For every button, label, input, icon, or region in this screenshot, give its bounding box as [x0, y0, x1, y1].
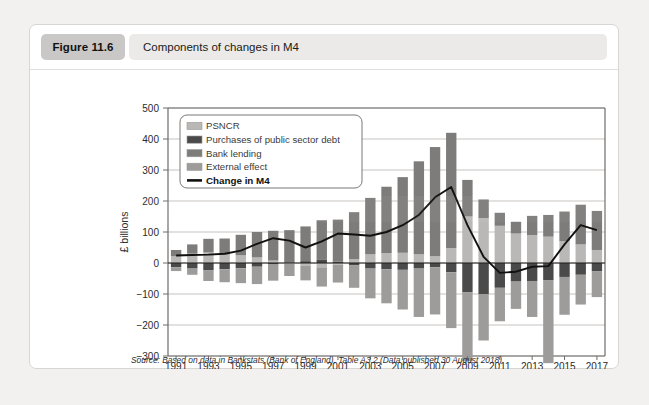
bar-segment — [187, 263, 197, 269]
bar-segment — [592, 271, 602, 297]
legend-item-label: External effect — [206, 161, 267, 172]
y-axis-tick-label: −100 — [136, 289, 159, 300]
x-axis-tick-label: 2015 — [553, 361, 576, 369]
bar-segment — [511, 234, 521, 263]
bar-segment — [495, 213, 505, 226]
y-axis-tick-label: 300 — [142, 165, 159, 176]
bar-segment — [236, 255, 246, 263]
bar-segment — [495, 263, 505, 288]
bar-segment — [462, 263, 472, 292]
bar-segment — [300, 226, 310, 261]
bar-segment — [414, 161, 424, 254]
bar-segment — [592, 263, 602, 271]
y-axis-label: £ billions — [118, 212, 130, 253]
bar-segment — [171, 267, 181, 271]
bar-segment — [592, 211, 602, 250]
bar-segment — [398, 253, 408, 263]
bar-segment — [381, 263, 391, 269]
bar-segment — [430, 256, 440, 263]
chart-plot-area: 5004003002001000−100−200−300£ billions19… — [30, 71, 620, 369]
bar-segment — [236, 263, 246, 268]
y-axis-tick-label: −200 — [136, 320, 159, 331]
bar-segment — [365, 269, 375, 299]
bar-segment — [219, 263, 229, 269]
bar-segment — [333, 265, 343, 283]
components-of-m4-chart: 5004003002001000−100−200−300£ billions19… — [30, 71, 620, 369]
bar-segment — [543, 215, 553, 237]
bar-segment — [268, 265, 278, 281]
bar-segment — [446, 263, 456, 272]
legend-item-label: Change in M4 — [206, 175, 270, 186]
bar-segment — [284, 230, 294, 262]
y-axis-tick-label: 100 — [142, 227, 159, 238]
bar-segment — [365, 254, 375, 263]
y-axis-tick-label: 0 — [153, 258, 159, 269]
bar-segment — [317, 263, 327, 267]
bar-segment — [462, 180, 472, 217]
bar-segment — [203, 270, 213, 281]
bar-segment — [398, 270, 408, 310]
y-axis-tick-label: 400 — [142, 134, 159, 145]
figure-header: Figure 11.6 Components of changes in M4 — [41, 34, 607, 60]
legend-item-label: PSNCR — [206, 120, 240, 131]
x-axis-tick-label: 2017 — [586, 361, 609, 369]
bar-segment — [381, 187, 391, 253]
bar-segment — [236, 268, 246, 283]
y-axis-tick-label: 200 — [142, 196, 159, 207]
bar-segment — [187, 269, 197, 275]
source-note: Source: Based on data in Bankstats (Bank… — [131, 355, 502, 365]
legend-item-label: Purchases of public sector debt — [206, 134, 340, 145]
bar-segment — [592, 250, 602, 263]
bar-segment — [446, 248, 456, 263]
bar-segment — [317, 267, 327, 286]
bar-segment — [478, 294, 488, 341]
bar-segment — [365, 263, 375, 269]
bar-segment — [381, 253, 391, 263]
bar-segment — [495, 288, 505, 321]
bar-segment — [576, 275, 586, 305]
bar-segment — [284, 264, 294, 276]
bar-segment — [268, 231, 278, 261]
bar-segment — [252, 267, 262, 284]
bar-segment — [414, 263, 424, 269]
bar-segment — [398, 263, 408, 270]
bar-segment — [478, 199, 488, 218]
bar-segment — [543, 237, 553, 263]
bar-segment — [203, 239, 213, 253]
bar-segment — [187, 244, 197, 253]
legend-item-label: Bank lending — [206, 148, 261, 159]
bar-segment — [414, 254, 424, 263]
bar-segment — [462, 292, 472, 361]
x-axis-tick-label: 2013 — [521, 361, 544, 369]
bar-segment — [527, 281, 537, 317]
bar-segment — [446, 272, 456, 328]
chart-legend: PSNCRPurchases of public sector debtBank… — [180, 115, 362, 188]
bar-segment — [219, 269, 229, 282]
bar-segment — [171, 256, 181, 263]
bar-segment — [478, 263, 488, 294]
figure-number-badge: Figure 11.6 — [41, 34, 125, 60]
bar-segment — [527, 235, 537, 263]
legend-color-swatch — [187, 136, 202, 143]
figure-title: Components of changes in M4 — [129, 34, 607, 60]
bar-segment — [543, 280, 553, 363]
bar-segment — [349, 265, 359, 287]
bar-segment — [559, 263, 569, 277]
bar-segment — [300, 265, 310, 280]
header-divider — [30, 69, 618, 70]
bar-segment — [559, 277, 569, 315]
bar-segment — [171, 263, 181, 267]
bar-segment — [527, 216, 537, 235]
bar-segment — [430, 263, 440, 267]
y-axis-tick-label: 500 — [142, 103, 159, 114]
figure-card: Figure 11.6 Components of changes in M4 … — [29, 24, 619, 369]
bar-segment — [365, 198, 375, 254]
legend-color-swatch — [187, 150, 202, 157]
bar-segment — [511, 282, 521, 309]
legend-color-swatch — [187, 122, 202, 129]
bar-segment — [495, 226, 505, 263]
bar-segment — [414, 269, 424, 317]
bar-segment — [576, 244, 586, 263]
bar-segment — [398, 177, 408, 253]
bar-segment — [381, 269, 391, 303]
